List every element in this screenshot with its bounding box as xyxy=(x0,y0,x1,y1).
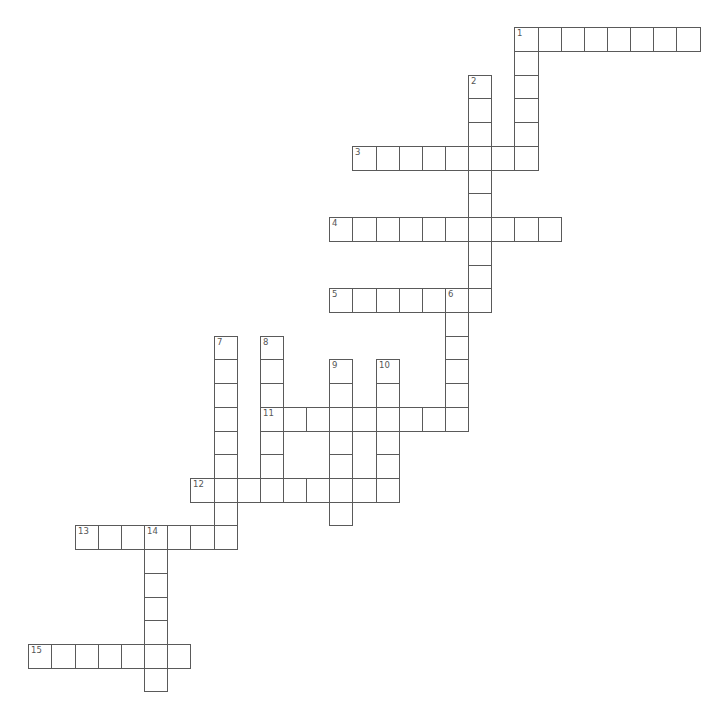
cell-letter-input[interactable] xyxy=(469,99,491,122)
cell-letter-input[interactable] xyxy=(307,479,329,502)
cell-letter-input[interactable] xyxy=(377,289,399,312)
cell-letter-input[interactable] xyxy=(145,669,167,691)
crossword-cell[interactable] xyxy=(399,146,423,171)
cell-letter-input[interactable] xyxy=(261,408,283,431)
cell-letter-input[interactable] xyxy=(423,147,445,170)
crossword-cell[interactable] xyxy=(468,193,492,218)
cell-letter-input[interactable] xyxy=(377,360,399,383)
cell-letter-input[interactable] xyxy=(353,408,376,431)
crossword-cell[interactable] xyxy=(329,502,353,526)
crossword-cell[interactable] xyxy=(376,478,400,503)
cell-letter-input[interactable] xyxy=(423,218,445,241)
cell-letter-input[interactable] xyxy=(539,28,561,51)
crossword-cell[interactable] xyxy=(376,383,400,408)
cell-letter-input[interactable] xyxy=(446,289,468,312)
crossword-cell[interactable]: 4 xyxy=(329,217,353,242)
cell-letter-input[interactable] xyxy=(515,218,538,241)
cell-letter-input[interactable] xyxy=(400,408,422,431)
cell-letter-input[interactable] xyxy=(423,289,445,312)
cell-letter-input[interactable] xyxy=(145,574,167,597)
cell-letter-input[interactable] xyxy=(377,147,399,170)
crossword-cell[interactable] xyxy=(329,407,353,432)
crossword-cell[interactable] xyxy=(607,27,631,52)
cell-letter-input[interactable] xyxy=(353,147,376,170)
cell-letter-input[interactable] xyxy=(377,218,399,241)
cell-letter-input[interactable] xyxy=(215,455,237,478)
crossword-cell[interactable] xyxy=(376,407,400,432)
cell-letter-input[interactable] xyxy=(330,384,352,407)
crossword-cell[interactable]: 8 xyxy=(260,336,284,360)
crossword-cell[interactable] xyxy=(468,122,492,147)
crossword-cell[interactable] xyxy=(376,146,400,171)
crossword-cell[interactable]: 3 xyxy=(352,146,377,171)
cell-letter-input[interactable] xyxy=(400,147,422,170)
crossword-cell[interactable] xyxy=(237,478,261,503)
crossword-cell[interactable] xyxy=(329,431,353,455)
cell-letter-input[interactable] xyxy=(353,289,376,312)
crossword-cell[interactable] xyxy=(399,407,423,432)
cell-letter-input[interactable] xyxy=(52,645,75,668)
cell-letter-input[interactable] xyxy=(469,242,491,265)
cell-letter-input[interactable] xyxy=(446,337,468,359)
crossword-cell[interactable] xyxy=(329,383,353,408)
crossword-cell[interactable] xyxy=(468,170,492,194)
cell-letter-input[interactable] xyxy=(261,455,283,478)
cell-letter-input[interactable] xyxy=(469,76,491,98)
crossword-cell[interactable] xyxy=(214,454,238,479)
crossword-cell[interactable] xyxy=(190,525,215,550)
crossword-cell[interactable] xyxy=(422,288,446,313)
cell-letter-input[interactable] xyxy=(469,147,491,170)
crossword-cell[interactable]: 10 xyxy=(376,359,400,384)
crossword-cell[interactable] xyxy=(376,288,400,313)
crossword-cell[interactable] xyxy=(399,217,423,242)
cell-letter-input[interactable] xyxy=(353,479,376,502)
cell-letter-input[interactable] xyxy=(423,408,445,431)
cell-letter-input[interactable] xyxy=(446,147,468,170)
crossword-cell[interactable]: 14 xyxy=(144,525,168,550)
cell-letter-input[interactable] xyxy=(377,455,399,478)
crossword-cell[interactable] xyxy=(306,478,330,503)
crossword-cell[interactable] xyxy=(283,478,307,503)
cell-letter-input[interactable] xyxy=(215,337,237,359)
cell-letter-input[interactable] xyxy=(469,266,491,288)
crossword-cell[interactable] xyxy=(468,98,492,123)
crossword-cell[interactable] xyxy=(144,620,168,645)
cell-letter-input[interactable] xyxy=(677,28,700,51)
crossword-cell[interactable]: 7 xyxy=(214,336,238,360)
cell-letter-input[interactable] xyxy=(469,171,491,193)
crossword-cell[interactable] xyxy=(422,146,446,171)
crossword-cell[interactable] xyxy=(144,644,168,669)
crossword-cell[interactable]: 15 xyxy=(28,644,52,669)
crossword-cell[interactable] xyxy=(144,549,168,574)
crossword-cell[interactable] xyxy=(514,51,539,76)
crossword-cell[interactable]: 12 xyxy=(190,478,215,503)
crossword-cell[interactable] xyxy=(376,454,400,479)
cell-letter-input[interactable] xyxy=(122,645,144,668)
cell-letter-input[interactable] xyxy=(515,76,538,98)
crossword-cell[interactable] xyxy=(98,525,122,550)
cell-letter-input[interactable] xyxy=(76,526,98,549)
crossword-cell[interactable] xyxy=(376,217,400,242)
cell-letter-input[interactable] xyxy=(585,28,607,51)
crossword-cell[interactable] xyxy=(445,407,469,432)
crossword-cell[interactable]: 9 xyxy=(329,359,353,384)
cell-letter-input[interactable] xyxy=(215,526,237,549)
crossword-cell[interactable] xyxy=(399,288,423,313)
crossword-cell[interactable] xyxy=(283,407,307,432)
crossword-cell[interactable] xyxy=(214,478,238,503)
crossword-cell[interactable] xyxy=(51,644,76,669)
cell-letter-input[interactable] xyxy=(215,432,237,454)
cell-letter-input[interactable] xyxy=(215,384,237,407)
crossword-cell[interactable] xyxy=(329,454,353,479)
cell-letter-input[interactable] xyxy=(191,479,214,502)
crossword-cell[interactable] xyxy=(352,217,377,242)
cell-letter-input[interactable] xyxy=(215,360,237,383)
crossword-cell[interactable] xyxy=(260,383,284,408)
cell-letter-input[interactable] xyxy=(515,147,538,170)
cell-letter-input[interactable] xyxy=(492,147,514,170)
crossword-cell[interactable] xyxy=(167,644,191,669)
crossword-cell[interactable] xyxy=(214,383,238,408)
cell-letter-input[interactable] xyxy=(631,28,653,51)
crossword-cell[interactable] xyxy=(445,359,469,384)
cell-letter-input[interactable] xyxy=(400,289,422,312)
